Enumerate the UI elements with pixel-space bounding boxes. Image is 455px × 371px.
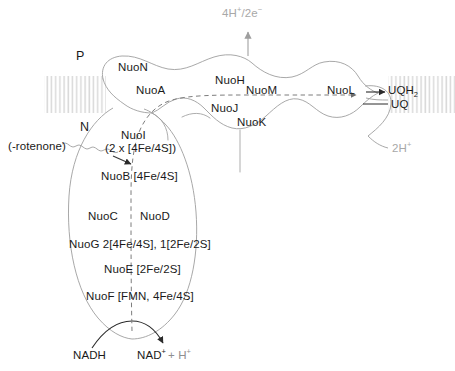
product-label-nad: NAD++ H+ bbox=[137, 350, 191, 362]
subunit-label-nuoi-cofactors: (2 x [4Fe/4S]) bbox=[105, 143, 176, 155]
subunit-label-nuok: NuoK bbox=[237, 117, 266, 129]
subunit-label-nuod: NuoD bbox=[140, 211, 170, 223]
diagram-vector-layer bbox=[0, 0, 455, 371]
inhibitor-label-rotenone: (-rotenone) bbox=[8, 141, 66, 153]
subunit-label-nuoj: NuoJ bbox=[211, 103, 238, 115]
quinone-label-uq: UQ bbox=[391, 99, 408, 111]
compartment-label-p: P bbox=[76, 50, 84, 63]
subunit-label-nuoe: NuoE [2Fe/2S] bbox=[104, 264, 181, 276]
subunit-label-nuoc: NuoC bbox=[88, 211, 118, 223]
proton-uptake-label: 2H+ bbox=[392, 143, 411, 155]
subunit-label-nuoa: NuoA bbox=[136, 85, 165, 97]
membrane-left-band bbox=[44, 76, 106, 113]
nadh-oxidation-arrow bbox=[92, 321, 163, 348]
subunit-label-nuog: NuoG 2[4Fe/4S], 1[2Fe/2S] bbox=[69, 239, 211, 251]
compartment-label-n: N bbox=[80, 121, 89, 134]
proton-efflux-label: 4H+/2e− bbox=[222, 8, 262, 20]
subunit-label-nuom: NuoM bbox=[246, 85, 277, 97]
subunit-label-nuof: NuoF [FMN, 4Fe/4S] bbox=[86, 291, 194, 303]
subunit-label-nuoi: NuoI bbox=[121, 130, 146, 142]
complex-i-diagram: P N 4H+/2e− NuoN NuoA NuoH NuoM NuoJ Nuo… bbox=[0, 0, 455, 371]
subunit-label-nuol: NuoL bbox=[327, 85, 355, 97]
quinone-label-uqh2: UQH2 bbox=[388, 85, 418, 97]
subunit-label-nuoh: NuoH bbox=[215, 75, 245, 87]
rotenone-inhibition-arrow bbox=[113, 156, 131, 164]
subunit-label-nuon: NuoN bbox=[118, 62, 148, 74]
subunit-label-nuob: NuoB [4Fe/4S] bbox=[101, 171, 178, 183]
substrate-label-nadh: NADH bbox=[73, 350, 106, 362]
